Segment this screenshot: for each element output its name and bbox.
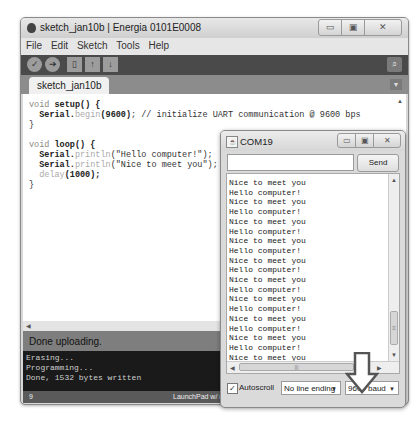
tab-menu-button[interactable]: ▼ [390, 79, 402, 90]
menu-file[interactable]: File [26, 40, 42, 51]
maximize-button[interactable]: ▣ [341, 19, 365, 36]
verify-button[interactable]: ✓ [27, 57, 42, 72]
tab-bar: sketch_jan10b § ▼ [21, 75, 408, 94]
close-button[interactable]: ✕ [364, 19, 402, 36]
verify-icon: ✓ [31, 59, 39, 69]
editor-scroll-up-icon[interactable]: ▲ [397, 98, 403, 104]
board-name: LaunchPad w/ m [173, 393, 225, 400]
open-icon: ↑ [90, 59, 95, 69]
serial-titlebar[interactable]: ☕ COM19 ▭ ▣ ✕ [221, 131, 405, 151]
scroll-left-icon[interactable]: ◀ [230, 364, 235, 371]
java-app-icon: ☕ [226, 136, 238, 148]
upload-button[interactable]: ➔ [45, 57, 60, 72]
save-icon: ↓ [108, 59, 113, 69]
serial-output: Nice to meet you Hello computer! Nice to… [226, 173, 400, 374]
menu-edit[interactable]: Edit [51, 40, 68, 51]
serial-monitor-button[interactable]: ⌕ [387, 57, 402, 72]
new-button[interactable]: ▯ [67, 57, 82, 72]
serial-output-lines: Nice to meet you Hello computer! Nice to… [229, 178, 306, 362]
menu-tools[interactable]: Tools [116, 40, 139, 51]
scroll-thumb[interactable]: ≡ [390, 311, 398, 345]
serial-minimize-button[interactable]: ▭ [337, 133, 356, 148]
toolbar: ✓ ➔ ▯ ↑ ↓ ⌕ [21, 55, 408, 75]
serial-vertical-scrollbar[interactable]: ▲ ≡ ▼ [388, 174, 399, 361]
minimize-button[interactable]: ▭ [318, 19, 342, 36]
menu-help[interactable]: Help [148, 40, 169, 51]
upload-icon: ➔ [49, 59, 57, 69]
ide-titlebar[interactable]: sketch_jan10b | Energia 0101E0008 ▭ ▣ ✕ [21, 18, 408, 38]
autoscroll-label: Autoscroll [239, 383, 274, 392]
line-number: 9 [29, 393, 33, 400]
scroll-up-icon[interactable]: ▲ [391, 177, 397, 183]
scroll-thumb-horizontal[interactable]: ||| [239, 363, 354, 371]
line-ending-select[interactable]: No line ending ▼ [281, 381, 341, 395]
scroll-down-icon[interactable]: ▼ [391, 352, 397, 358]
down-arrow-icon [345, 352, 379, 394]
serial-window-title: COM19 [240, 136, 273, 147]
menu-sketch[interactable]: Sketch [77, 40, 108, 51]
open-button[interactable]: ↑ [85, 57, 100, 72]
save-button[interactable]: ↓ [103, 57, 118, 72]
menu-bar: File Edit Sketch Tools Help [21, 38, 408, 55]
scroll-left-icon[interactable]: ◀ [26, 322, 31, 329]
serial-monitor-icon: ⌕ [392, 59, 397, 69]
serial-send-input[interactable] [227, 154, 354, 171]
energia-logo-icon [27, 23, 36, 33]
serial-maximize-button[interactable]: ▣ [355, 133, 374, 148]
new-icon: ▯ [72, 59, 77, 69]
ide-window-title: sketch_jan10b | Energia 0101E0008 [40, 22, 201, 33]
send-button[interactable]: Send [357, 154, 399, 172]
chevron-down-icon: ▼ [389, 382, 395, 396]
status-message: Done uploading. [29, 336, 102, 347]
autoscroll-checkbox[interactable]: ✓ [227, 383, 238, 394]
chevron-down-icon: ▼ [393, 81, 400, 88]
tab-sketch[interactable]: sketch_jan10b § [29, 77, 109, 94]
serial-close-button[interactable]: ✕ [373, 133, 401, 148]
chevron-down-icon: ▼ [331, 382, 337, 396]
